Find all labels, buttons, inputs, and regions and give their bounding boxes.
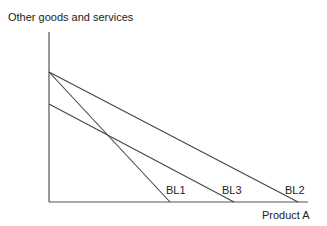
label-bl1: BL1 <box>166 184 186 196</box>
budget-line-bl3 <box>49 104 234 202</box>
budget-line-diagram: Other goods and services Product A BL1 B… <box>0 0 327 226</box>
budget-line-bl2 <box>49 72 298 202</box>
budget-line-bl1 <box>49 72 170 202</box>
label-bl2: BL2 <box>285 184 305 196</box>
y-axis-label: Other goods and services <box>8 11 134 23</box>
x-axis-label: Product A <box>262 209 310 221</box>
label-bl3: BL3 <box>222 184 242 196</box>
